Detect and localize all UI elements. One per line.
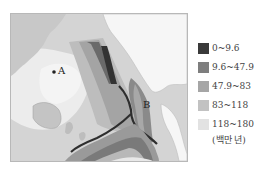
age-legend: 0~9.6 9.6~47.9 47.9~83 83~118 118~180 (백… — [198, 40, 256, 146]
pacific-ocean-map — [11, 14, 187, 161]
legend-swatch-2 — [198, 81, 209, 92]
legend-label: 0~9.6 — [212, 43, 240, 53]
legend-label: 47.9~83 — [212, 81, 251, 91]
legend-item: 83~118 — [198, 97, 256, 113]
legend-swatch-3 — [198, 100, 209, 111]
marker-a-dot — [52, 70, 56, 74]
legend-item: 0~9.6 — [198, 40, 256, 56]
legend-item: 118~180 — [198, 116, 256, 132]
legend-swatch-1 — [198, 62, 209, 73]
legend-item: 47.9~83 — [198, 78, 256, 94]
seafloor-age-map: A B — [10, 13, 188, 162]
legend-item: 9.6~47.9 — [198, 59, 256, 75]
legend-label: 9.6~47.9 — [212, 62, 254, 72]
legend-swatch-4 — [198, 119, 209, 130]
legend-label: 83~118 — [212, 100, 248, 110]
legend-swatch-0 — [198, 43, 209, 54]
legend-unit: (백만 년) — [212, 133, 256, 146]
marker-b-label: B — [143, 100, 150, 110]
legend-label: 118~180 — [212, 119, 254, 129]
marker-a-label: A — [58, 66, 65, 76]
